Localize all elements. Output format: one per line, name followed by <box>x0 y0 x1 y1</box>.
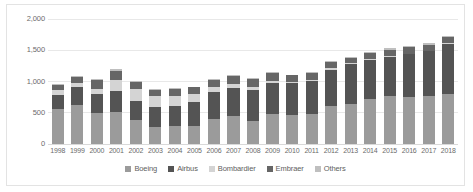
legend-swatch-icon <box>168 166 174 172</box>
bar-1999[interactable] <box>71 76 83 144</box>
bar-2009[interactable] <box>266 72 278 144</box>
bar-segment-boeing <box>286 115 298 144</box>
bar-2001[interactable] <box>110 69 122 144</box>
x-tick-label: 2004 <box>165 146 185 156</box>
x-tick-label: 2016 <box>399 146 419 156</box>
bar-segment-airbus <box>130 101 142 120</box>
gridline-2000 <box>48 19 458 20</box>
bar-2005[interactable] <box>188 87 200 145</box>
bar-segment-airbus <box>52 95 64 109</box>
x-tick-label: 2014 <box>360 146 380 156</box>
bar-segment-bombardier <box>188 94 200 102</box>
bar-segment-boeing <box>71 105 83 144</box>
legend-item-boeing[interactable]: Boeing <box>125 165 157 173</box>
x-tick-label: 2012 <box>321 146 341 156</box>
y-tick-label: 500 <box>11 109 45 117</box>
bar-segment-boeing <box>306 114 318 144</box>
bar-2016[interactable] <box>403 46 415 145</box>
bar-segment-boeing <box>247 121 259 144</box>
legend-item-airbus[interactable]: Airbus <box>168 165 198 173</box>
x-axis: 1998199920002001200220032004200520062007… <box>48 146 458 158</box>
bar-segment-airbus <box>188 102 200 126</box>
bar-segment-airbus <box>384 57 396 97</box>
bar-segment-embraer <box>130 82 142 90</box>
x-tick-label: 2001 <box>107 146 127 156</box>
legend-item-others[interactable]: Others <box>315 165 346 173</box>
bar-segment-airbus <box>149 107 161 126</box>
legend-swatch-icon <box>125 166 131 172</box>
bar-segment-embraer <box>188 87 200 94</box>
x-tick-label: 2013 <box>341 146 361 156</box>
y-axis: 05001,0001,5002,000 <box>7 19 45 144</box>
bar-segment-bombardier <box>169 96 181 107</box>
bar-2011[interactable] <box>306 72 318 144</box>
x-tick-label: 2017 <box>419 146 439 156</box>
bar-segment-boeing <box>208 119 220 144</box>
bar-2010[interactable] <box>286 75 298 144</box>
chart-legend: BoeingAirbusBombardierEmbraerOthers <box>7 165 464 173</box>
legend-item-bombardier[interactable]: Bombardier <box>209 165 256 173</box>
bar-segment-boeing <box>364 99 376 144</box>
bar-2018[interactable] <box>442 36 454 144</box>
x-tick-label: 2005 <box>185 146 205 156</box>
legend-item-label: Embraer <box>276 165 304 173</box>
bar-segment-boeing <box>110 112 122 145</box>
x-tick-label: 2018 <box>438 146 458 156</box>
bar-2015[interactable] <box>384 48 396 144</box>
bar-segment-embraer <box>110 71 122 81</box>
bar-2012[interactable] <box>325 61 337 144</box>
bar-segment-boeing <box>130 120 142 144</box>
bar-segment-embraer <box>325 62 337 69</box>
bar-2008[interactable] <box>247 78 259 145</box>
bar-1998[interactable] <box>52 84 64 144</box>
bar-2004[interactable] <box>169 88 181 144</box>
bar-segment-embraer <box>208 80 220 88</box>
bar-2007[interactable] <box>227 75 239 144</box>
bar-2003[interactable] <box>149 89 161 144</box>
bar-segment-boeing <box>188 126 200 144</box>
legend-item-embraer[interactable]: Embraer <box>267 165 304 173</box>
x-tick-label: 2003 <box>146 146 166 156</box>
x-tick-label: 2007 <box>224 146 244 156</box>
bar-segment-bombardier <box>130 89 142 101</box>
bar-segment-embraer <box>266 73 278 81</box>
x-tick-label: 2008 <box>243 146 263 156</box>
bar-segment-boeing <box>91 113 103 144</box>
bar-segment-airbus <box>208 92 220 119</box>
y-tick-label: 2,000 <box>11 15 45 23</box>
gridline-1500 <box>48 50 458 51</box>
bar-2017[interactable] <box>423 43 435 144</box>
bar-2013[interactable] <box>345 57 357 144</box>
plot-area <box>48 19 458 144</box>
y-tick-label: 1,500 <box>11 46 45 54</box>
bar-segment-airbus <box>286 83 298 115</box>
bar-2014[interactable] <box>364 52 376 144</box>
bar-segment-embraer <box>227 76 239 84</box>
x-tick-label: 2000 <box>87 146 107 156</box>
legend-swatch-icon <box>267 166 273 172</box>
bar-segment-bombardier <box>110 80 122 91</box>
bar-segment-airbus <box>169 106 181 126</box>
bar-segment-airbus <box>306 81 318 114</box>
bar-segment-embraer <box>71 77 83 84</box>
bar-2002[interactable] <box>130 81 142 144</box>
chart-container: 05001,0001,5002,000 19981999200020012002… <box>6 4 465 186</box>
bar-segment-airbus <box>247 90 259 120</box>
bar-2006[interactable] <box>208 79 220 144</box>
bar-segment-boeing <box>345 104 357 145</box>
legend-item-label: Bombardier <box>218 165 256 173</box>
bar-segment-boeing <box>442 94 454 144</box>
legend-item-label: Others <box>324 165 346 173</box>
x-tick-label: 1998 <box>48 146 68 156</box>
bar-segment-airbus <box>345 64 357 103</box>
bar-segment-airbus <box>403 54 415 97</box>
bar-segment-airbus <box>71 87 83 105</box>
bar-segment-airbus <box>364 60 376 99</box>
bar-segment-boeing <box>169 126 181 144</box>
bar-segment-airbus <box>423 51 435 96</box>
bar-segment-airbus <box>110 91 122 111</box>
bar-2000[interactable] <box>91 79 103 144</box>
bar-segment-boeing <box>227 116 239 144</box>
bar-segment-bombardier <box>149 96 161 107</box>
bar-segment-airbus <box>325 70 337 107</box>
